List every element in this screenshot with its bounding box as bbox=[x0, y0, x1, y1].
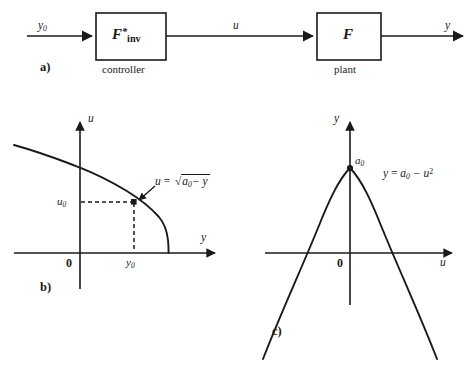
panel-a-input-label: y0 bbox=[38, 20, 47, 33]
panel-c-marker-point bbox=[347, 165, 353, 171]
panel-c-tag: c) bbox=[272, 325, 282, 338]
panel-c-y-axis-label: y bbox=[334, 113, 339, 125]
panel-b-y-axis-label: u bbox=[88, 113, 94, 125]
panel-c-peak-label: a0 bbox=[355, 155, 364, 168]
panel-a-tag: a) bbox=[40, 61, 50, 74]
controller-symbol-subscript: inv bbox=[127, 33, 141, 44]
panel-b-x-axis-label: y bbox=[201, 232, 206, 244]
sqrt-symbol: √a0− y bbox=[173, 174, 210, 189]
panel-b-curve-equation: u = √a0− y bbox=[155, 174, 210, 189]
panel-a-signal-u-label: u bbox=[233, 20, 239, 32]
panel-b-vector bbox=[14, 122, 215, 289]
panel-c-x-axis-label: u bbox=[440, 257, 446, 269]
panel-b-tag: b) bbox=[40, 281, 51, 294]
plant-caption: plant bbox=[334, 64, 356, 75]
controller-block-symbol: F*inv bbox=[112, 27, 141, 44]
panel-a-vector bbox=[27, 13, 463, 60]
panel-b-y-tick-label: u0 bbox=[57, 196, 66, 209]
controller-caption: controller bbox=[102, 64, 145, 75]
panel-b-x-tick-label: y0 bbox=[126, 257, 135, 270]
panel-b-curve bbox=[14, 145, 169, 253]
panel-b-equation-leader bbox=[139, 186, 155, 200]
panel-c-origin-label: 0 bbox=[337, 257, 343, 269]
panel-b-origin-label: 0 bbox=[66, 257, 72, 269]
figure-vector-layer bbox=[0, 0, 474, 366]
plant-block-symbol: F bbox=[343, 27, 353, 42]
panel-b-marker-point bbox=[131, 199, 137, 205]
figure-root: y0 F*inv controller u F plant y a) u y 0… bbox=[0, 0, 474, 366]
panel-a-output-label: y bbox=[445, 20, 450, 32]
panel-c-curve-equation: y = a0 − u2 bbox=[383, 168, 433, 181]
